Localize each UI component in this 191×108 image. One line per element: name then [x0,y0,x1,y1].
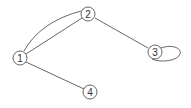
node-label: 4 [87,87,93,98]
node-label: 1 [17,53,23,64]
edge-1-2-curved [24,11,81,51]
node-3: 3 [148,45,162,59]
node-label: 3 [152,47,158,58]
node-2: 2 [81,7,95,21]
edge-1-4 [26,62,84,89]
graph-diagram: 1 2 3 4 [0,0,191,108]
node-4: 4 [83,85,97,99]
edge-1-2-straight [26,18,82,54]
node-1: 1 [13,51,27,65]
node-label: 2 [85,9,91,20]
edge-2-3 [95,18,148,48]
